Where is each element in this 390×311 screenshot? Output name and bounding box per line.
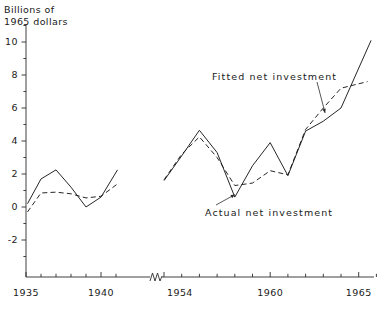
y-tick-label: 2 [12, 168, 18, 179]
chart-series-layer [28, 40, 372, 212]
y-tick-label: -2 [8, 234, 18, 245]
y-tick-label: 6 [12, 102, 18, 113]
series-line-fitted [164, 82, 368, 186]
series-line-actual [164, 40, 371, 197]
annotation-fitted-net-investment: Fitted net investment [212, 71, 337, 82]
chart-figure: Billions of 1965 dollars -20246810193519… [0, 0, 390, 311]
y-tick-label: 4 [12, 135, 18, 146]
x-tick-label: 1965 [346, 287, 372, 298]
annotation-actual-net-investment: Actual net investment [205, 207, 333, 218]
chart-axes [22, 25, 377, 281]
y-tick-label: 10 [5, 36, 18, 47]
x-tick-label: 1954 [167, 287, 193, 298]
axis-break-marker [150, 273, 162, 281]
leader-fitted [317, 82, 325, 113]
y-tick-label: 0 [12, 201, 18, 212]
y-tick-label: 8 [12, 69, 18, 80]
chart-plot-area: -2024681019351940195419601965 [0, 0, 390, 311]
series-line-fitted [28, 184, 118, 212]
x-tick-label: 1935 [13, 287, 39, 298]
x-tick-label: 1960 [257, 287, 283, 298]
x-tick-label: 1940 [88, 287, 114, 298]
series-line-actual [28, 170, 118, 207]
